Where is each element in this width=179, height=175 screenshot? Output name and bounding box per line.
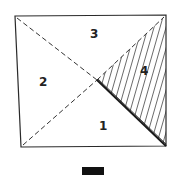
solid-diagonal-inner [98, 79, 166, 144]
dashed-diagonal-top-left [17, 18, 97, 80]
dashed-diagonal-bottom-left [23, 80, 97, 145]
region-label-1: 1 [99, 119, 107, 133]
region-label-4: 4 [140, 64, 148, 78]
black-bar [82, 167, 104, 175]
square-diagram: 3 2 1 4 [0, 0, 179, 175]
region-label-3: 3 [90, 27, 98, 41]
region-label-2: 2 [39, 75, 47, 89]
solid-diagonal [97, 80, 166, 146]
